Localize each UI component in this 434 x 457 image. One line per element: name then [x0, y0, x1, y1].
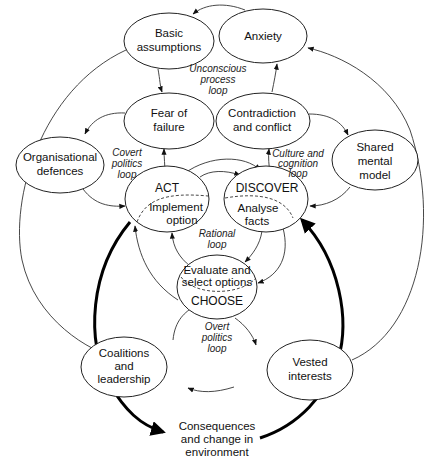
- svg-text:interests: interests: [288, 370, 332, 382]
- edge-defences-to-act: [83, 189, 125, 206]
- edge-assumptions-to-coalitions: [19, 50, 126, 358]
- edge-contradiction-to-shared: [309, 114, 348, 135]
- svg-text:Covert: Covert: [112, 147, 143, 158]
- svg-text:ACT: ACT: [155, 181, 180, 195]
- svg-text:Fear of: Fear of: [151, 107, 188, 119]
- svg-text:loop: loop: [208, 343, 227, 354]
- edge-act-to-consequences: [95, 222, 163, 432]
- edge-assumptions-to-fear: [158, 69, 162, 92]
- edge-anxiety-to-assumptions: [193, 5, 245, 14]
- svg-text:environment: environment: [185, 446, 249, 457]
- svg-text:Unconscious: Unconscious: [189, 63, 246, 74]
- svg-text:and: and: [114, 360, 133, 372]
- svg-text:DISCOVER: DISCOVER: [236, 181, 299, 195]
- edge-vested-to-coalitions: [188, 387, 234, 392]
- svg-text:loop: loop: [118, 169, 137, 180]
- svg-text:Implement: Implement: [149, 201, 203, 213]
- svg-text:leadership: leadership: [97, 373, 150, 385]
- decision-loops-diagram: Basic assumptions Anxiety Fear of failur…: [0, 0, 434, 457]
- loop-label-overt: Overt politics loop: [201, 321, 233, 354]
- edge-choose-to-act: [172, 233, 190, 266]
- svg-text:Organisational: Organisational: [23, 151, 97, 163]
- svg-text:and change in: and change in: [181, 433, 253, 445]
- svg-text:model: model: [359, 169, 390, 181]
- edge-choose-to-vested: [235, 318, 256, 345]
- svg-text:loop: loop: [208, 239, 227, 250]
- svg-text:failure: failure: [153, 121, 184, 133]
- edge-discover-to-choose: [245, 231, 262, 262]
- svg-text:option: option: [166, 214, 197, 226]
- node-act: ACT Implement option: [125, 166, 209, 232]
- svg-text:mental: mental: [358, 155, 393, 167]
- node-fear-of-failure: Fear of failure: [124, 93, 214, 149]
- edge-shared-to-discover: [310, 187, 350, 206]
- node-coalitions-leadership: Coalitions and leadership: [81, 337, 167, 397]
- svg-text:process: process: [199, 74, 235, 85]
- svg-text:politics: politics: [201, 332, 233, 343]
- node-shared-mental-model: Shared mental model: [332, 130, 418, 190]
- edge-choose-to-act-outer: [135, 226, 178, 300]
- svg-text:Evaluate and: Evaluate and: [183, 264, 250, 276]
- edge-discover-to-choose-outer: [258, 228, 285, 283]
- svg-text:politics: politics: [111, 158, 143, 169]
- node-anxiety: Anxiety: [219, 9, 307, 63]
- svg-text:Analyse: Analyse: [238, 202, 279, 214]
- node-basic-assumptions: Basic assumptions: [124, 13, 214, 69]
- svg-text:select options: select options: [182, 276, 253, 288]
- svg-text:Basic: Basic: [155, 27, 183, 39]
- edge-contradiction-to-anxiety: [272, 64, 277, 92]
- edge-fear-to-defences: [85, 113, 125, 134]
- loop-label-rational: Rational loop: [199, 228, 236, 250]
- node-consequences: Consequences and change in environment: [179, 420, 256, 457]
- edge-consequences-to-discover: [260, 220, 343, 438]
- loop-label-unconscious: Unconscious process loop: [189, 63, 246, 96]
- node-organisational-defences: Organisational defences: [16, 137, 104, 193]
- node-contradiction-conflict: Contradiction and conflict: [216, 93, 310, 149]
- svg-text:Consequences: Consequences: [179, 420, 256, 432]
- svg-text:Anxiety: Anxiety: [244, 30, 282, 42]
- svg-text:Overt: Overt: [205, 321, 231, 332]
- svg-text:and conflict: and conflict: [233, 121, 292, 133]
- svg-text:Contradiction: Contradiction: [228, 107, 296, 119]
- svg-text:Vested: Vested: [292, 356, 327, 368]
- svg-text:defences: defences: [37, 165, 84, 177]
- edge-act-to-discover-inner: [200, 171, 240, 177]
- node-vested-interests: Vested interests: [267, 340, 353, 400]
- svg-text:Coalitions: Coalitions: [99, 347, 150, 359]
- svg-text:loop: loop: [289, 168, 308, 179]
- node-choose: Evaluate and select options CHOOSE: [177, 255, 257, 319]
- svg-text:Rational: Rational: [199, 228, 236, 239]
- svg-text:CHOOSE: CHOOSE: [191, 294, 243, 308]
- svg-text:loop: loop: [209, 85, 228, 96]
- svg-text:facts: facts: [245, 215, 270, 227]
- svg-text:assumptions: assumptions: [137, 41, 202, 53]
- svg-text:Shared: Shared: [356, 141, 393, 153]
